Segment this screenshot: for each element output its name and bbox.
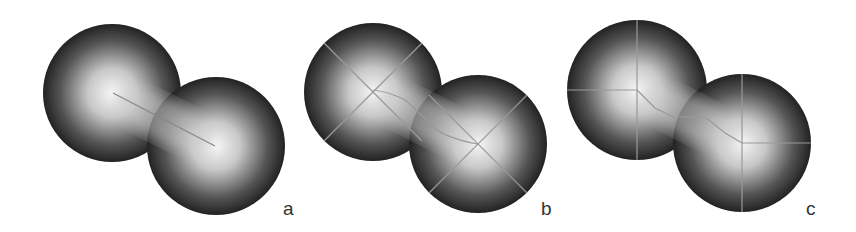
panel-c bbox=[567, 20, 811, 212]
panel-label-b: b bbox=[541, 198, 552, 220]
panel-label-a: a bbox=[283, 198, 294, 220]
panel-a bbox=[43, 24, 285, 215]
panel-b bbox=[304, 23, 547, 213]
figure-canvas bbox=[0, 0, 856, 232]
panel-label-c: c bbox=[806, 198, 816, 220]
